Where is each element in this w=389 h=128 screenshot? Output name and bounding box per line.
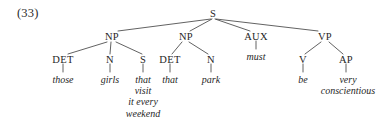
- tree-branch: [110, 42, 111, 54]
- tree-node-np1: NP: [105, 31, 119, 42]
- tree-branch: [305, 42, 321, 54]
- leaf-word-park: park: [202, 74, 220, 85]
- tree-node-n1: N: [106, 54, 114, 65]
- leaf-word-very-consc: very conscientious: [321, 74, 375, 96]
- leaf-word-girls: girls: [101, 74, 119, 85]
- tree-node-det1: DET: [52, 54, 73, 65]
- tree-branch: [68, 42, 107, 54]
- tree-branch: [190, 19, 212, 31]
- tree-branch: [189, 42, 208, 54]
- tree-node-det2: DET: [159, 54, 180, 65]
- tree-node-v: V: [299, 54, 307, 65]
- tree-branch: [329, 42, 343, 54]
- tree-branch: [116, 42, 142, 54]
- tree-node-root-s: S: [210, 8, 216, 19]
- tree-node-s2: S: [140, 54, 146, 65]
- tree-node-vp: VP: [318, 31, 332, 42]
- tree-node-aux: AUX: [244, 31, 268, 42]
- leaf-word-must: must: [247, 51, 266, 62]
- tree-node-ap: AP: [339, 54, 353, 65]
- syntax-tree-figure: (33) SNPNPAUXVPDETNSDETNVAP thosegirlsth…: [0, 0, 389, 128]
- leaf-word-those: those: [52, 74, 73, 85]
- leaf-word-that-clause: that visit it every weekend: [126, 74, 160, 119]
- tree-branch: [118, 19, 211, 31]
- tree-branch: [172, 42, 182, 54]
- tree-node-np2: NP: [179, 31, 193, 42]
- leaf-word-be: be: [298, 74, 307, 85]
- leaf-word-that: that: [162, 74, 178, 85]
- tree-node-n2: N: [207, 54, 215, 65]
